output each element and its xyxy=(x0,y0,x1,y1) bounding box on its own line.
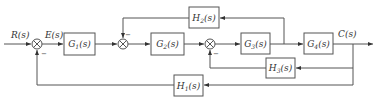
summing-junction-2: − xyxy=(118,31,131,49)
output-signal-label: C(s) xyxy=(338,29,357,39)
minus-sign: − xyxy=(41,50,47,58)
block-h2: H2(s) xyxy=(189,7,219,28)
summing-junction-1: − xyxy=(32,39,47,58)
block-h1: H1(s) xyxy=(174,75,203,96)
svg-text:H2(s): H2(s) xyxy=(191,13,216,24)
svg-text:H1(s): H1(s) xyxy=(176,81,201,92)
svg-text:G4(s): G4(s) xyxy=(307,39,330,50)
input-signal-label: R(s) xyxy=(10,30,30,40)
minus-sign: − xyxy=(125,31,131,39)
svg-text:G3(s): G3(s) xyxy=(244,39,267,50)
block-g1: G1(s) xyxy=(64,33,95,55)
svg-text:H3(s): H3(s) xyxy=(268,63,293,74)
block-g2: G2(s) xyxy=(151,33,184,55)
block-g4: G4(s) xyxy=(304,33,333,54)
block-g3: G3(s) xyxy=(241,33,270,54)
svg-text:G2(s): G2(s) xyxy=(156,39,179,50)
error-signal-label: E(s) xyxy=(44,30,64,40)
block-h3: H3(s) xyxy=(266,58,295,78)
svg-text:G1(s): G1(s) xyxy=(68,39,91,50)
summing-junction-3: − xyxy=(205,39,219,58)
minus-sign: − xyxy=(213,50,219,58)
block-diagram: − − − G1(s) G2(s) G3(s) G4(s) H2(s) xyxy=(0,0,377,102)
